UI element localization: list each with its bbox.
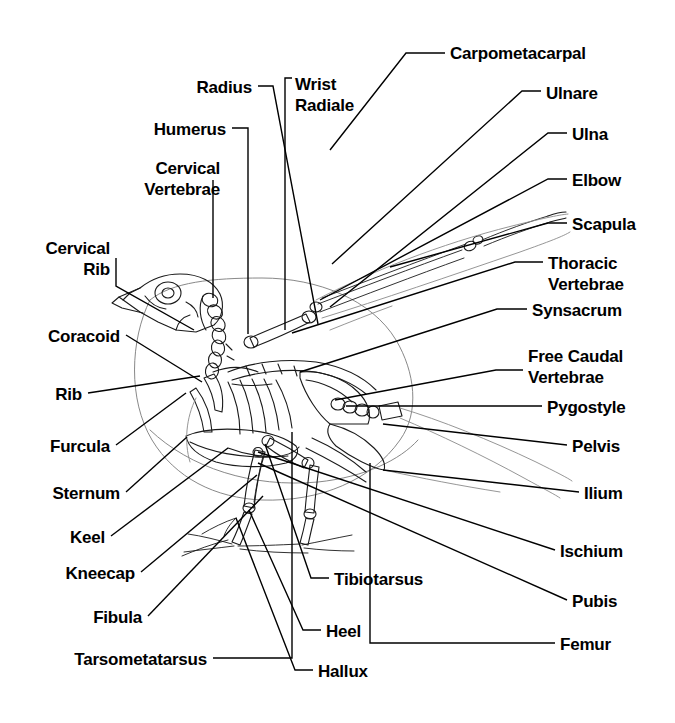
label-heel-line-1: Heel bbox=[326, 622, 361, 642]
label-kneecap-line-1: Kneecap bbox=[66, 564, 135, 584]
label-scapula: Scapula bbox=[572, 215, 636, 235]
label-free-caudal-vertebrae-line-2: Vertebrae bbox=[528, 367, 623, 388]
leader-line-ulna bbox=[330, 133, 567, 307]
leader-line-heel bbox=[249, 510, 321, 630]
label-tibiotarsus-line-1: Tibiotarsus bbox=[334, 570, 423, 590]
label-ulna-line-1: Ulna bbox=[572, 125, 608, 145]
label-tarsometatarsus-line-1: Tarsometatarsus bbox=[74, 650, 207, 670]
leader-line-fibula bbox=[148, 496, 263, 616]
label-thoracic-vertebrae: ThoracicVertebrae bbox=[548, 253, 624, 295]
label-fibula: Fibula bbox=[93, 608, 142, 628]
label-femur: Femur bbox=[560, 635, 611, 655]
label-pelvis: Pelvis bbox=[572, 437, 620, 457]
label-cervical-rib-line-1: Cervical bbox=[45, 238, 110, 259]
label-free-caudal-vertebrae: Free CaudalVertebrae bbox=[528, 346, 623, 388]
label-ischium-line-1: Ischium bbox=[560, 542, 623, 562]
label-tibiotarsus: Tibiotarsus bbox=[334, 570, 423, 590]
label-pubis-line-1: Pubis bbox=[572, 592, 617, 612]
leader-line-kneecap bbox=[141, 475, 257, 572]
label-carpometacarpal-line-1: Carpometacarpal bbox=[450, 44, 586, 64]
leader-line-hallux bbox=[236, 518, 313, 670]
label-ischium: Ischium bbox=[560, 542, 623, 562]
label-ilium: Ilium bbox=[584, 484, 623, 504]
label-elbow: Elbow bbox=[572, 171, 621, 191]
leader-line-ilium bbox=[383, 470, 579, 492]
label-thoracic-vertebrae-line-2: Vertebrae bbox=[548, 274, 624, 295]
leader-line-thoracic-vertebrae bbox=[292, 262, 543, 333]
label-hallux: Hallux bbox=[318, 662, 368, 682]
label-keel: Keel bbox=[70, 528, 105, 548]
label-ulna: Ulna bbox=[572, 125, 608, 145]
label-synsacrum-line-1: Synsacrum bbox=[532, 301, 622, 321]
leader-line-keel bbox=[111, 448, 228, 536]
label-thoracic-vertebrae-line-1: Thoracic bbox=[548, 253, 624, 274]
label-coracoid: Coracoid bbox=[48, 327, 120, 347]
label-furcula: Furcula bbox=[50, 437, 110, 457]
label-humerus: Humerus bbox=[154, 120, 226, 140]
label-femur-line-1: Femur bbox=[560, 635, 611, 655]
label-pubis: Pubis bbox=[572, 592, 617, 612]
label-cervical-vertebrae-line-1: Cervical bbox=[144, 158, 220, 179]
label-kneecap: Kneecap bbox=[66, 564, 135, 584]
leader-line-free-caudal-vertebrae bbox=[335, 370, 523, 400]
label-radius-line-1: Radius bbox=[197, 78, 252, 98]
leader-line-synsacrum bbox=[300, 309, 527, 372]
label-tarsometatarsus: Tarsometatarsus bbox=[74, 650, 207, 670]
label-free-caudal-vertebrae-line-1: Free Caudal bbox=[528, 346, 623, 367]
label-humerus-line-1: Humerus bbox=[154, 120, 226, 140]
leader-line-tarsometatarsus bbox=[213, 432, 292, 658]
label-wrist-radiale-line-2: Radiale bbox=[295, 95, 354, 116]
label-ulnare: Ulnare bbox=[546, 84, 598, 104]
label-cervical-rib-line-2: Rib bbox=[45, 259, 110, 280]
label-ilium-line-1: Ilium bbox=[584, 484, 623, 504]
label-furcula-line-1: Furcula bbox=[50, 437, 110, 457]
label-cervical-vertebrae-line-2: Vertebrae bbox=[144, 179, 220, 200]
leader-line-pelvis bbox=[383, 424, 567, 445]
label-sternum-line-1: Sternum bbox=[52, 484, 120, 504]
label-rib-line-1: Rib bbox=[55, 385, 82, 405]
label-scapula-line-1: Scapula bbox=[572, 215, 636, 235]
leader-line-scapula bbox=[390, 223, 567, 267]
label-fibula-line-1: Fibula bbox=[93, 608, 142, 628]
label-keel-line-1: Keel bbox=[70, 528, 105, 548]
label-pelvis-line-1: Pelvis bbox=[572, 437, 620, 457]
label-heel: Heel bbox=[326, 622, 361, 642]
leader-line-wrist-radiale bbox=[285, 78, 292, 330]
leader-line-coracoid bbox=[126, 335, 202, 382]
label-rib: Rib bbox=[55, 385, 82, 405]
label-sternum: Sternum bbox=[52, 484, 120, 504]
label-hallux-line-1: Hallux bbox=[318, 662, 368, 682]
leader-line-humerus bbox=[232, 128, 248, 334]
label-wrist-radiale-line-1: Wrist bbox=[295, 74, 354, 95]
leader-line-sternum bbox=[126, 437, 187, 492]
label-coracoid-line-1: Coracoid bbox=[48, 327, 120, 347]
leader-line-tibiotarsus bbox=[265, 444, 329, 578]
label-ulnare-line-1: Ulnare bbox=[546, 84, 598, 104]
leader-line-ischium bbox=[258, 452, 555, 550]
label-elbow-line-1: Elbow bbox=[572, 171, 621, 191]
label-cervical-rib: CervicalRib bbox=[45, 238, 110, 280]
label-cervical-vertebrae: CervicalVertebrae bbox=[144, 158, 220, 200]
bird-skeleton-diagram: CarpometacarpalRadiusWristRadialeUlnareH… bbox=[0, 0, 675, 723]
label-pygostyle: Pygostyle bbox=[547, 398, 626, 418]
label-wrist-radiale: WristRadiale bbox=[295, 74, 354, 116]
label-pygostyle-line-1: Pygostyle bbox=[547, 398, 626, 418]
label-synsacrum: Synsacrum bbox=[532, 301, 622, 321]
leader-line-furcula bbox=[116, 393, 186, 445]
leader-line-cervical-rib bbox=[116, 258, 194, 330]
label-carpometacarpal: Carpometacarpal bbox=[450, 44, 586, 64]
label-radius: Radius bbox=[197, 78, 252, 98]
leader-line-radius bbox=[258, 86, 318, 324]
leader-line-rib bbox=[88, 376, 200, 393]
leader-line-elbow bbox=[320, 179, 567, 300]
